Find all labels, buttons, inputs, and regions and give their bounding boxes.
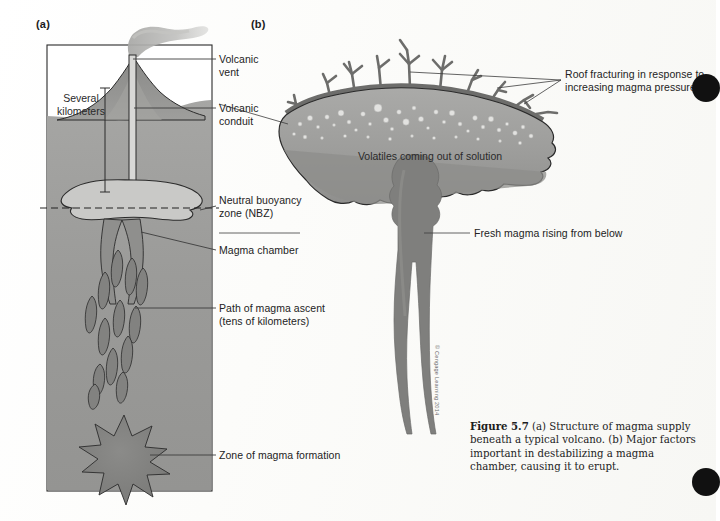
label-magma-chamber: Magma chamber [219, 244, 298, 257]
volcanic-conduit-shape [129, 55, 136, 195]
label-roof-fracturing: Roof fracturing in response to increasin… [565, 68, 704, 93]
leader-roof-fracture-1 [410, 72, 561, 80]
label-several-kilometers: Several kilometers [52, 92, 110, 117]
panel-b-letter: (b) [251, 18, 266, 30]
label-neutral-buoyancy-zone: Neutral buoyancy zone (NBZ) [219, 194, 302, 219]
scan-edge-dot-top [692, 74, 720, 102]
figure-caption: Figure 5.7 (a) Structure of magma supply… [470, 420, 702, 474]
label-volatiles-coming-out-of-solution: Volatiles coming out of solution [330, 150, 530, 163]
label-zone-of-magma-formation: Zone of magma formation [219, 449, 340, 462]
scan-edge-dot-bottom [692, 468, 720, 496]
leader-roof-fracture-2 [497, 80, 561, 88]
copyright-watermark: © Cengage Learning 2014 [434, 345, 440, 415]
label-fresh-magma-rising: Fresh magma rising from below [474, 227, 623, 240]
label-path-of-magma-ascent: Path of magma ascent (tens of kilometers… [219, 302, 325, 327]
panel-a-letter: (a) [36, 18, 50, 30]
figure-number: Figure 5.7 [470, 420, 529, 432]
magma-chamber-shape [61, 180, 202, 221]
label-volcanic-conduit: Volcanic conduit [219, 102, 259, 127]
label-volcanic-vent: Volcanic vent [219, 53, 259, 78]
